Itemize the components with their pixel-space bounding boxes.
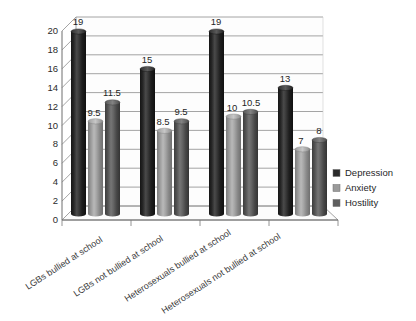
legend-label-anxiety: Anxiety	[345, 182, 376, 193]
bar-depression[interactable]	[140, 66, 155, 216]
bar-depression[interactable]	[209, 29, 224, 217]
y-tick-label: 8	[53, 138, 58, 149]
value-label: 15	[142, 54, 153, 65]
legend-label-hostility: Hostility	[345, 197, 379, 208]
legend-swatch-depression	[333, 170, 340, 177]
y-tick-label: 6	[53, 157, 58, 168]
y-tick-label: 0	[53, 214, 58, 225]
bar-hostility[interactable]	[312, 137, 327, 216]
value-label: 11.5	[103, 87, 121, 98]
y-tick-label: 12	[47, 101, 58, 112]
bar-depression[interactable]	[278, 85, 293, 216]
y-tick-label: 4	[53, 176, 58, 187]
y-tick-label: 18	[47, 44, 58, 55]
legend-swatch-hostility	[333, 200, 340, 207]
value-label: 7	[298, 135, 303, 146]
y-tick-label: 2	[53, 195, 58, 206]
value-label: 9.5	[87, 107, 100, 118]
value-label: 10	[227, 102, 238, 113]
value-label: 19	[211, 16, 222, 27]
bar-depression[interactable]	[71, 29, 86, 217]
y-tick-label: 20	[47, 25, 58, 36]
chart-container: 20 18 16 14 12 10 8 6 4 2 0	[0, 0, 416, 321]
legend-label-depression: Depression	[345, 167, 393, 178]
value-label: 13	[280, 73, 291, 84]
bar-hostility[interactable]	[174, 119, 189, 217]
value-label: 8.5	[156, 116, 169, 127]
y-tick-label: 10	[47, 120, 58, 131]
legend-swatch-anxiety	[333, 185, 340, 192]
y-tick-label: 14	[47, 82, 58, 93]
value-label: 8	[316, 125, 321, 136]
value-label: 9.5	[174, 106, 187, 117]
bar-anxiety[interactable]	[295, 147, 310, 217]
y-tick-label: 16	[47, 63, 58, 74]
value-label: 19	[73, 16, 84, 27]
bar-anxiety[interactable]	[88, 119, 103, 217]
bar-hostility[interactable]	[243, 109, 258, 216]
bar-chart: 20 18 16 14 12 10 8 6 4 2 0	[0, 0, 416, 321]
bar-hostility[interactable]	[105, 100, 120, 217]
bar-anxiety[interactable]	[226, 114, 241, 217]
value-label: 10.5	[242, 97, 261, 108]
bar-anxiety[interactable]	[157, 128, 172, 216]
